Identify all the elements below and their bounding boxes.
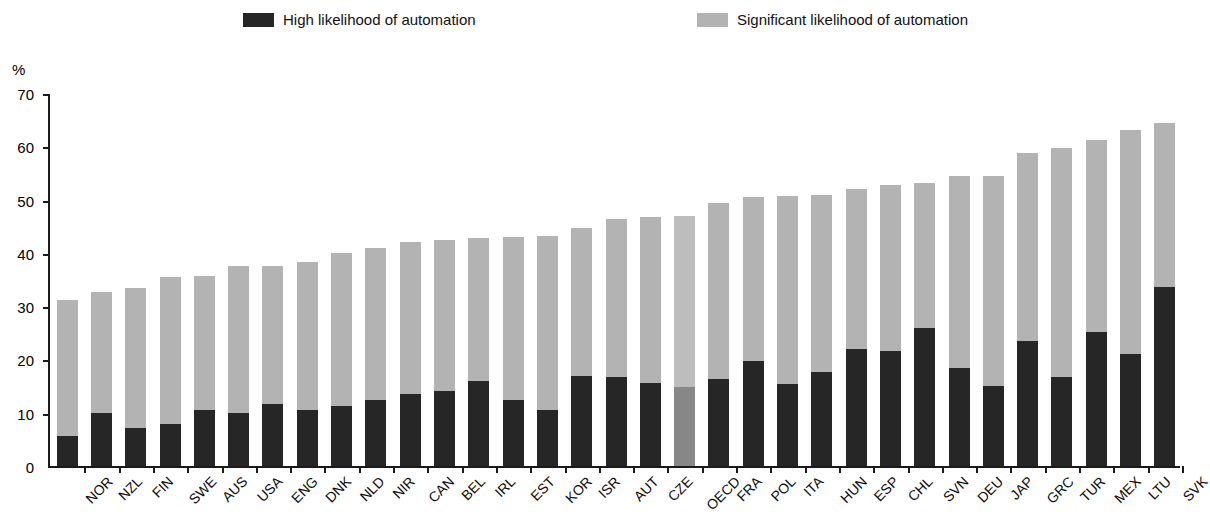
bar-segment-significant-nir <box>365 248 386 400</box>
x-tick-mark-mex <box>1113 466 1115 473</box>
bar-segment-significant-isr <box>571 228 592 377</box>
bar-can[interactable] <box>400 242 421 466</box>
bar-segment-significant-nor <box>57 300 78 436</box>
x-axis-label-cze: CZE <box>665 474 695 504</box>
x-axis-label-bel: BEL <box>459 474 488 503</box>
bar-jap[interactable] <box>983 176 1004 466</box>
y-axis-unit-label: % <box>12 62 25 77</box>
x-axis-label-kor: KOR <box>563 474 594 505</box>
bar-dnk[interactable] <box>297 262 318 466</box>
bar-segment-high-bel <box>434 391 455 466</box>
bar-kor[interactable] <box>537 236 558 466</box>
bar-segment-high-fin <box>125 428 146 466</box>
bar-svn[interactable] <box>914 183 935 466</box>
bar-segment-significant-ita <box>777 196 798 384</box>
bar-segment-significant-est <box>503 237 524 401</box>
x-axis-label-fra: FRA <box>734 474 764 504</box>
bar-segment-significant-chl <box>880 185 901 351</box>
y-tick-mark-70 <box>43 94 50 96</box>
bar-usa[interactable] <box>228 266 249 466</box>
bar-nzl[interactable] <box>91 292 112 466</box>
bar-ita[interactable] <box>777 196 798 466</box>
x-axis-label-nld: NLD <box>357 474 387 504</box>
y-tick-label-30: 30 <box>0 300 34 315</box>
bar-nir[interactable] <box>365 248 386 466</box>
bar-fra[interactable] <box>708 203 729 466</box>
x-axis-label-dnk: DNK <box>323 474 354 505</box>
x-tick-mark-aut <box>633 466 635 473</box>
x-axis-label-grc: GRC <box>1044 474 1076 506</box>
x-axis-label-nzl: NZL <box>116 474 145 503</box>
x-tick-mark-grc <box>1045 466 1047 473</box>
bar-fin[interactable] <box>125 288 146 466</box>
x-axis-label-svk: SVK <box>1180 474 1210 504</box>
bar-segment-high-swe <box>160 424 181 466</box>
bar-segment-high-svk <box>1154 287 1175 466</box>
bar-segment-high-nld <box>331 406 352 466</box>
bar-segment-high-isr <box>571 376 592 466</box>
bar-deu[interactable] <box>949 176 970 466</box>
x-tick-mark-fin <box>153 466 155 473</box>
bar-nor[interactable] <box>57 300 78 466</box>
x-axis-label-esp: ESP <box>871 474 901 504</box>
y-tick-label-20: 20 <box>0 353 34 368</box>
x-axis-label-nir: NIR <box>390 474 417 501</box>
bar-hun[interactable] <box>811 195 832 466</box>
x-tick-mark-ltu <box>1148 466 1150 473</box>
bar-segment-high-aut <box>606 377 627 466</box>
bar-segment-high-ita <box>777 384 798 466</box>
bar-pol[interactable] <box>743 197 764 466</box>
y-tick-label-10: 10 <box>0 407 34 422</box>
bar-esp[interactable] <box>846 189 867 466</box>
bar-ltu[interactable] <box>1120 130 1141 466</box>
x-tick-mark-oecd <box>702 466 704 473</box>
bar-segment-significant-jap <box>983 176 1004 385</box>
x-tick-mark-deu <box>976 466 978 473</box>
x-axis-label-tur: TUR <box>1077 474 1107 504</box>
y-tick-label-70: 70 <box>0 87 34 102</box>
x-axis-label-irl: IRL <box>492 474 517 499</box>
bar-mex[interactable] <box>1086 140 1107 466</box>
x-axis-label-nor: NOR <box>83 474 115 506</box>
plot-area: 010203040506070 <box>48 95 1180 468</box>
bar-segment-significant-usa <box>228 266 249 413</box>
x-axis-label-can: CAN <box>426 474 457 505</box>
x-tick-mark-svk <box>1182 466 1184 473</box>
bar-segment-high-eng <box>262 404 283 466</box>
bar-aut[interactable] <box>606 219 627 466</box>
bar-eng[interactable] <box>262 266 283 466</box>
bar-aus[interactable] <box>194 276 215 466</box>
y-tick-mark-30 <box>43 307 50 309</box>
bar-svk[interactable] <box>1154 123 1175 466</box>
bar-bel[interactable] <box>434 240 455 466</box>
x-tick-mark-nld <box>359 466 361 473</box>
x-tick-mark-can <box>427 466 429 473</box>
bar-isr[interactable] <box>571 228 592 466</box>
bar-segment-significant-cze <box>640 217 661 384</box>
x-tick-mark-dnk <box>324 466 326 473</box>
bar-nld[interactable] <box>331 253 352 466</box>
bar-tur[interactable] <box>1051 148 1072 466</box>
bar-segment-high-deu <box>949 368 970 466</box>
bar-oecd[interactable] <box>674 216 695 466</box>
bar-swe[interactable] <box>160 277 181 466</box>
bar-segment-high-chl <box>880 351 901 466</box>
bar-segment-high-aus <box>194 410 215 466</box>
bar-irl[interactable] <box>468 238 489 466</box>
bar-est[interactable] <box>503 237 524 466</box>
bar-segment-significant-can <box>400 242 421 394</box>
bar-segment-high-usa <box>228 413 249 466</box>
x-tick-mark-ita <box>805 466 807 473</box>
y-tick-mark-10 <box>43 414 50 416</box>
bar-chl[interactable] <box>880 185 901 466</box>
bar-cze[interactable] <box>640 217 661 466</box>
y-tick-mark-60 <box>43 147 50 149</box>
bar-segment-significant-bel <box>434 240 455 391</box>
bar-grc[interactable] <box>1017 153 1038 466</box>
bar-segment-high-tur <box>1051 377 1072 466</box>
x-tick-mark-fra <box>736 466 738 473</box>
bar-segment-high-nor <box>57 436 78 466</box>
bar-segment-significant-aut <box>606 219 627 377</box>
y-tick-label-50: 50 <box>0 194 34 209</box>
x-axis-label-swe: SWE <box>186 474 218 506</box>
